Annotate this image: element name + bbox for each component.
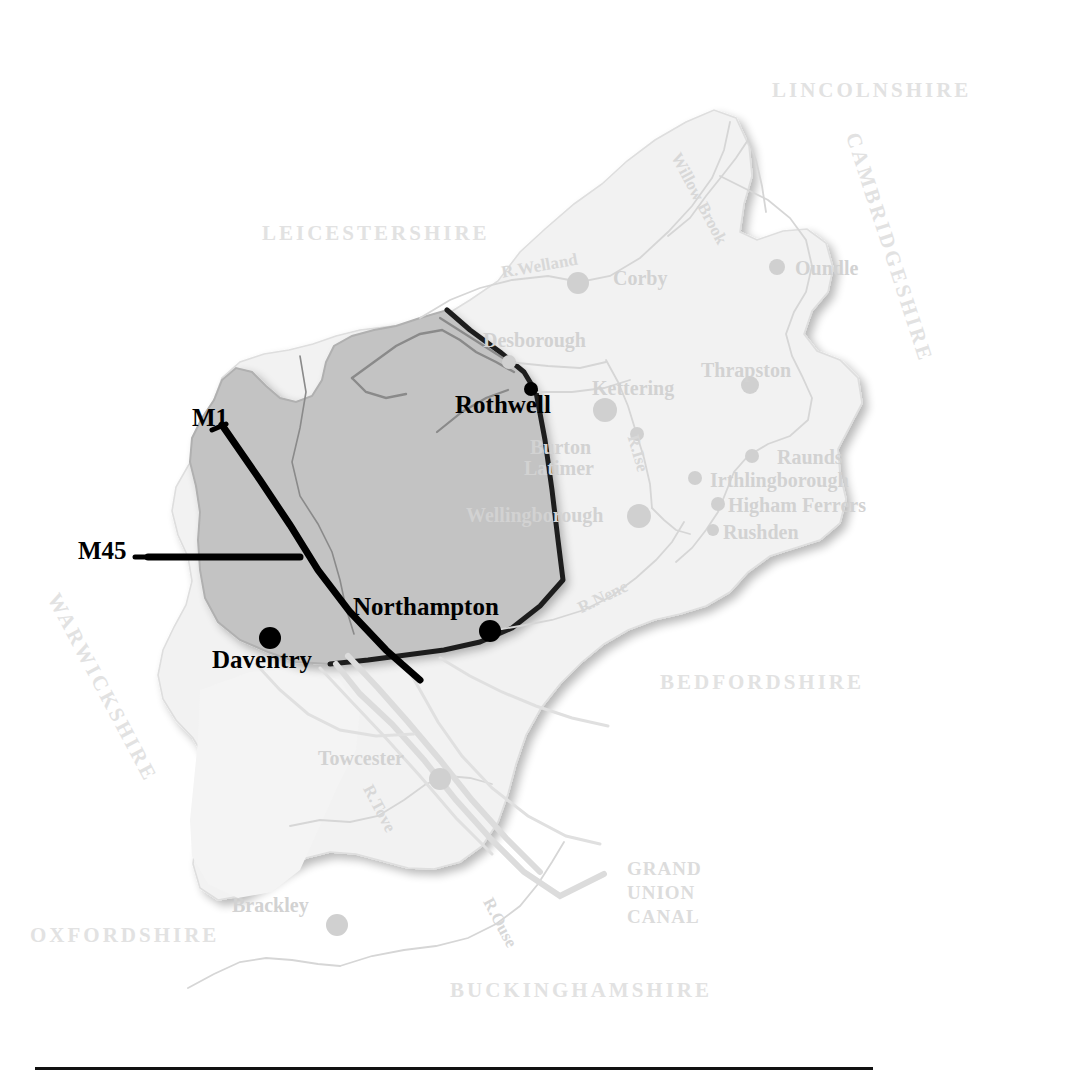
county-label-leicestershire: LEICESTERSHIRE — [262, 223, 490, 244]
town-label-towcester: Towcester — [318, 748, 404, 768]
town-label-higham-ferrers: Higham Ferrers — [728, 495, 866, 515]
town-dot-irthlingborough — [688, 471, 702, 485]
key-label-northampton: Northampton — [353, 594, 499, 619]
town-label-kettering: Kettering — [592, 378, 674, 398]
town-label-burton: Burton — [530, 437, 591, 457]
key-label-daventry: Daventry — [212, 647, 312, 672]
town-dot-rushden — [707, 524, 719, 536]
town-label-desborough: Desborough — [483, 330, 586, 350]
town-dot-corby — [567, 272, 589, 294]
town-label-brackley: Brackley — [232, 895, 309, 915]
county-label-buckinghamshire: BUCKINGHAMSHIRE — [450, 980, 712, 1001]
town-dot-higham-ferrers — [711, 497, 725, 511]
town-label-irthlingborough: Irthlingborough — [710, 470, 849, 490]
canal-label-grand-union: GRAND UNION CANAL — [627, 857, 702, 928]
town-label-rushden: Rushden — [723, 522, 799, 542]
road-label-m1: M1 — [192, 405, 228, 430]
town-dot-wellingborough — [627, 504, 651, 528]
town-label-thrapston: Thrapston — [701, 360, 791, 380]
county-shape-lower-extension — [190, 668, 360, 898]
town-label-wellingborough: Wellingborough — [466, 505, 603, 525]
canal-label-line-2: UNION — [627, 881, 702, 905]
town-label-oundle: Oundle — [795, 258, 858, 278]
road-label-m45: M45 — [78, 538, 127, 563]
town-dot-brackley — [326, 914, 348, 936]
town-label-raunds: Raunds — [777, 447, 843, 467]
town-dot-raunds — [745, 449, 759, 463]
town-dot-oundle — [769, 259, 785, 275]
canal-label-line-3: CANAL — [627, 905, 702, 929]
town-label-latimer: Latimer — [524, 458, 594, 478]
county-label-bedfordshire: BEDFORDSHIRE — [660, 672, 864, 693]
bottom-rule — [35, 1067, 873, 1070]
county-label-lincolnshire: LINCOLNSHIRE — [772, 80, 971, 101]
canal-label-line-1: GRAND — [627, 857, 702, 881]
town-dot-towcester — [429, 768, 451, 790]
town-dot-kettering — [593, 398, 617, 422]
key-label-rothwell: Rothwell — [455, 392, 551, 417]
town-dot-desborough — [502, 355, 516, 369]
town-label-corby: Corby — [613, 268, 667, 288]
county-label-oxfordshire: OXFORDSHIRE — [30, 925, 219, 946]
key-dot-northampton — [479, 620, 501, 642]
map-graphics — [0, 0, 1069, 1076]
map-container: LINCOLNSHIRE CAMBRIDGESHIRE LEICESTERSHI… — [0, 0, 1069, 1076]
